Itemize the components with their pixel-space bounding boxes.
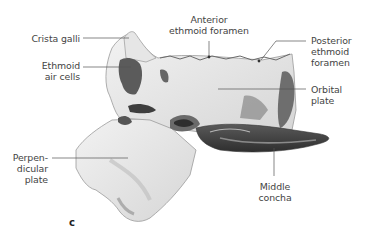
panel-letter: c (69, 217, 75, 228)
label-ethmoid-air-cells: Ethmoid air cells (20, 60, 80, 82)
posterior-ethmoid-foramen-dot (258, 60, 261, 63)
label-text: concha (250, 192, 300, 203)
label-text: Perpen- (0, 152, 48, 163)
label-text: Orbital (311, 84, 371, 95)
label-text: plate (0, 174, 48, 185)
crista-galli-shape (124, 32, 156, 62)
label-posterior-ethmoid-foramen: Posterior ethmoid foramen (311, 35, 375, 68)
label-text: Posterior (311, 35, 375, 46)
perpendicular-plate-shape (76, 118, 196, 221)
label-perpendicular-plate: Perpen- dicular plate (0, 152, 48, 185)
label-anterior-ethmoid-foramen: Anterior ethmoid foramen (164, 14, 254, 36)
middle-concha-shape (196, 124, 329, 152)
label-text: Crista galli (31, 33, 80, 44)
label-crista-galli: Crista galli (16, 33, 80, 44)
label-text: dicular (0, 163, 48, 174)
label-text: foramen (311, 57, 375, 68)
label-middle-concha: Middle concha (250, 181, 300, 203)
label-text: air cells (20, 71, 80, 82)
label-orbital-plate: Orbital plate (311, 84, 371, 106)
ethmoid-bone-figure: Crista galli Ethmoid air cells Anterior … (0, 0, 376, 242)
label-text: ethmoid (311, 46, 375, 57)
label-text: ethmoid foramen (164, 25, 254, 36)
label-text: Anterior (164, 14, 254, 25)
label-text: plate (311, 95, 371, 106)
label-text: Ethmoid (20, 60, 80, 71)
anterior-ethmoid-foramen-dot (208, 56, 211, 59)
label-text: Middle (250, 181, 300, 192)
